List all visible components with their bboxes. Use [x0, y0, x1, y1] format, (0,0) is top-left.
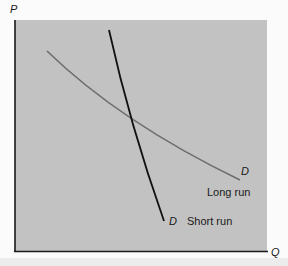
- long-run-curve-label: D: [241, 165, 249, 177]
- long-run-text: Long run: [207, 186, 250, 198]
- page-bottom-band: [0, 258, 288, 266]
- x-axis-label: Q: [271, 246, 280, 258]
- y-axis-label: P: [10, 3, 18, 15]
- short-run-text: Short run: [187, 215, 232, 227]
- demand-elasticity-chart: P Q D Long run D Short run: [0, 0, 288, 266]
- chart-svg: P Q D Long run D Short run: [0, 0, 288, 266]
- short-run-curve-label: D: [169, 215, 177, 227]
